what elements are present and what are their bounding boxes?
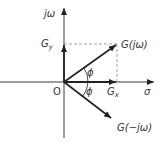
sigma-axis-label: σ (144, 86, 151, 97)
gy-label-sub: y (48, 43, 54, 51)
gy-label: Gy (41, 38, 54, 51)
phi-upper-label: ϕ (87, 67, 94, 78)
gx-label: Gx (107, 86, 120, 99)
jw-axis-label: jω (42, 8, 55, 19)
complex-plane-diagram: jω σ O G(jω) G(−jω) Gx Gy ϕ ϕ (0, 0, 167, 146)
g-neg-jw-label: G(−jω) (117, 122, 152, 133)
phi-lower-label: ϕ (86, 86, 93, 97)
gx-label-sub: x (114, 91, 120, 99)
g-jw-label: G(jω) (121, 39, 148, 50)
origin-label: O (53, 86, 61, 97)
